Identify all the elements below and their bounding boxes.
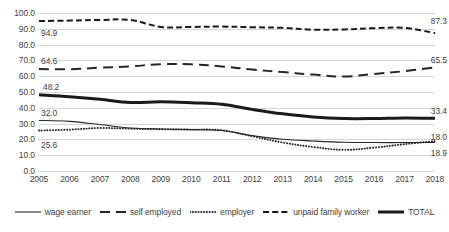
legend-swatch-solid-thick [378,207,404,217]
y-axis-tick-label: 60.0 [19,71,35,81]
x-axis-tick-label: 2018 [426,174,445,184]
y-axis-tick-label: 10.0 [19,150,35,160]
legend-item-label: self employed [130,207,181,217]
y-axis-tick-label: 40.0 [19,103,35,113]
legend-item-self-employed[interactable]: self employed [100,207,181,217]
legend-item-wage-earner[interactable]: wage earner [15,207,91,217]
x-axis-tick-label: 2007 [91,174,110,184]
data-label-self-employed-start: 64.6 [41,56,57,66]
data-label-total-start: 48.2 [43,82,59,92]
series-line-unpaid-family-worker [39,19,435,33]
y-axis-tick-label: 30.0 [19,119,35,129]
legend-item-unpaid-family-worker[interactable]: unpaid family worker [263,207,369,217]
x-axis-tick-label: 2017 [395,174,414,184]
x-axis-tick-label: 2009 [152,174,171,184]
chart-legend: wage earnerself employedemployerunpaid f… [0,203,449,221]
data-label-wage-earner-start: 32.0 [41,108,57,118]
y-axis-tick-label: 20.0 [19,134,35,144]
x-axis-tick-label: 2011 [213,174,231,184]
data-label-self-employed-end: 65.5 [431,55,447,65]
legend-item-label: wage earner [45,207,91,217]
gridline [39,171,435,172]
data-label-employer-start: 25.6 [41,140,57,150]
x-axis-tick-label: 2008 [121,174,140,184]
x-axis-tick-label: 2010 [182,174,201,184]
x-axis-tick-label: 2013 [273,174,292,184]
y-axis-tick-label: 50.0 [19,87,35,97]
data-label-wage-earner-end: 18.0 [431,132,447,142]
x-axis-tick-label: 2014 [304,174,323,184]
legend-swatch-dotted [190,207,216,217]
legend-item-label: TOTAL [408,207,434,217]
data-label-employer-end: 18.9 [431,148,447,158]
data-label-total-end: 33.4 [431,106,447,116]
y-axis-tick-label: 80.0 [19,40,35,50]
series-line-employer [39,128,435,150]
legend-item-total[interactable]: TOTAL [378,207,434,217]
series-line-wage-earner [39,120,435,142]
x-axis-tick-label: 2006 [60,174,79,184]
data-label-unpaid-family-worker-end: 87.3 [431,16,447,26]
series-line-self-employed [39,64,435,77]
series-line-total [39,95,435,119]
x-axis-tick-label: 2012 [243,174,262,184]
series-layer [39,13,435,171]
y-axis-tick-label: 90.0 [19,24,35,34]
y-axis-tick-label: 70.0 [19,55,35,65]
legend-item-label: employer [220,207,254,217]
x-axis: 2005200620072008200920102011201220132014… [39,174,435,188]
legend-item-employer[interactable]: employer [190,207,254,217]
y-axis-tick-label: 100.0 [14,8,35,18]
y-axis: 0.010.020.030.040.050.060.070.080.090.01… [0,13,35,171]
plot-area [39,13,435,171]
legend-item-label: unpaid family worker [293,207,369,217]
line-chart: 0.010.020.030.040.050.060.070.080.090.01… [0,0,449,232]
x-axis-tick-label: 2015 [334,174,353,184]
x-axis-tick-label: 2016 [365,174,384,184]
legend-swatch-long-dash [100,207,126,217]
legend-swatch-solid-thin [15,207,41,217]
legend-swatch-dash [263,207,289,217]
data-label-unpaid-family-worker-start: 94.9 [41,28,57,38]
x-axis-tick-label: 2005 [30,174,49,184]
